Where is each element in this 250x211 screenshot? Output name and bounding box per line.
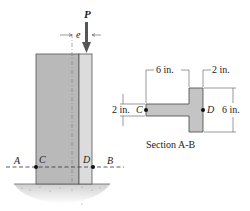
cross-section: [144, 88, 205, 132]
point-label-b: B: [107, 156, 113, 166]
load-arrow: [82, 22, 91, 53]
section-dimensions: [120, 70, 236, 132]
eccentricity-label: e: [76, 30, 80, 40]
dim-depth: 6 in.: [222, 105, 240, 115]
point-c-marker: [34, 165, 38, 169]
ground: [14, 184, 110, 205]
load-label-p: P: [84, 9, 91, 20]
section-caption: Section A-B: [146, 140, 195, 150]
section-point-label-c: C: [136, 105, 143, 115]
eccentricity-dimension: [60, 34, 101, 37]
dim-flange-thickness: 2 in.: [112, 105, 130, 115]
point-label-a: A: [14, 156, 20, 166]
dim-flange-length: 6 in.: [156, 65, 174, 75]
dim-web-width: 2 in.: [212, 65, 230, 75]
point-d-marker: [91, 165, 95, 169]
point-label-d: D: [83, 155, 90, 165]
section-point-label-d: D: [207, 105, 214, 115]
point-label-c: C: [39, 155, 46, 165]
